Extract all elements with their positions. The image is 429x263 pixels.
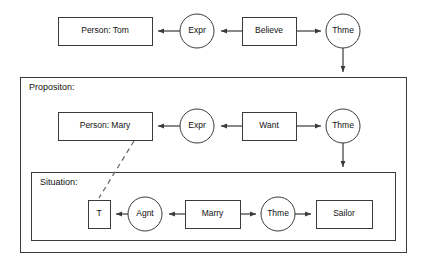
container-label-proposition: Propositon: bbox=[29, 82, 75, 92]
node-thme-bot[interactable] bbox=[261, 197, 295, 231]
node-expr-mid[interactable] bbox=[180, 109, 214, 143]
diagram-canvas: Propositon: Situation: Person: Tom Expr … bbox=[0, 0, 429, 263]
node-want[interactable] bbox=[243, 113, 297, 141]
node-person-mary[interactable] bbox=[59, 113, 153, 141]
node-thme-mid[interactable] bbox=[326, 109, 360, 143]
node-marry[interactable] bbox=[186, 201, 241, 229]
node-expr-top[interactable] bbox=[180, 14, 214, 48]
node-t-variable[interactable] bbox=[89, 201, 111, 229]
diagram-svg bbox=[0, 0, 429, 263]
container-label-situation: Situation: bbox=[40, 177, 78, 187]
node-thme-top[interactable] bbox=[326, 14, 360, 48]
node-believe[interactable] bbox=[243, 18, 297, 46]
node-person-tom[interactable] bbox=[59, 18, 153, 46]
node-sailor[interactable] bbox=[317, 201, 373, 229]
node-agnt[interactable] bbox=[128, 197, 162, 231]
